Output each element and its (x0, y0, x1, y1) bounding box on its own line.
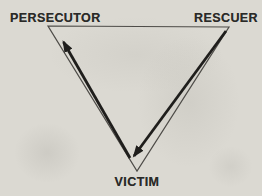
rescuer-label: RESCUER (194, 11, 258, 25)
arrow-victim-to-persecutor (64, 42, 131, 158)
victim-label: VICTIM (104, 175, 170, 189)
scanned-page: PERSECUTOR RESCUER VICTIM (0, 0, 262, 196)
drama-triangle-figure (0, 0, 262, 196)
arrow-rescuer-to-victim (134, 31, 226, 156)
persecutor-label: PERSECUTOR (10, 11, 101, 25)
